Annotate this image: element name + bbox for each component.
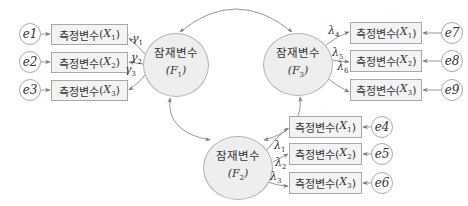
covariance-arc-f1-f3 — [180, 9, 292, 32]
latent-symbol: (F2) — [228, 165, 249, 187]
measured-variable-left-2: 측정변수(X2) — [51, 52, 128, 73]
error-term-e7: e7 — [441, 22, 463, 44]
covariance-arc-f1-f2 — [170, 98, 210, 140]
coef-lambda-1: λ1 — [274, 139, 285, 154]
measured-variable-right-1: 측정변수(X1) — [350, 22, 422, 44]
coef-lambda-5: λ5 — [332, 46, 343, 61]
latent-variable-f1: 잠재변수 (F1) — [143, 33, 209, 97]
measured-variable-bottom-2: 측정변수(X2) — [289, 143, 362, 165]
measured-variable-right-3: 측정변수(X3) — [350, 79, 422, 101]
coef-lambda-3: λ3 — [270, 170, 281, 185]
error-term-e2: e2 — [19, 51, 41, 73]
latent-label: 잠재변수 — [276, 45, 320, 62]
coef-lambda-2: λ2 — [275, 156, 286, 171]
latent-variable-f2: 잠재변수 (F2) — [203, 136, 273, 200]
error-term-e8: e8 — [441, 50, 463, 72]
coef-lambda-4: λ4 — [328, 24, 339, 39]
latent-symbol: (F1) — [166, 62, 187, 84]
measured-variable-bottom-3: 측정변수(X3) — [289, 172, 362, 194]
error-term-e4: e4 — [371, 116, 393, 138]
measured-variable-left-1: 측정변수(X1) — [51, 24, 128, 45]
measured-variable-bottom-1: 측정변수(X1) — [289, 116, 362, 138]
error-term-e9: e9 — [441, 79, 463, 101]
measured-variable-right-2: 측정변수(X2) — [350, 50, 422, 72]
coef-lambda-6: λ6 — [337, 60, 348, 75]
error-term-e1: e1 — [19, 23, 41, 45]
latent-variable-f3: 잠재변수 (F3) — [263, 33, 333, 96]
latent-label: 잠재변수 — [216, 148, 260, 165]
measured-variable-left-3: 측정변수(X3) — [51, 80, 128, 101]
coef-gamma-3: γ3 — [125, 63, 136, 78]
error-term-e5: e5 — [371, 143, 393, 165]
error-term-e6: e6 — [371, 172, 393, 194]
coef-gamma-1: γ1 — [132, 32, 143, 47]
latent-symbol: (F3) — [288, 62, 309, 84]
error-term-e3: e3 — [19, 79, 41, 101]
latent-label: 잠재변수 — [154, 45, 198, 62]
